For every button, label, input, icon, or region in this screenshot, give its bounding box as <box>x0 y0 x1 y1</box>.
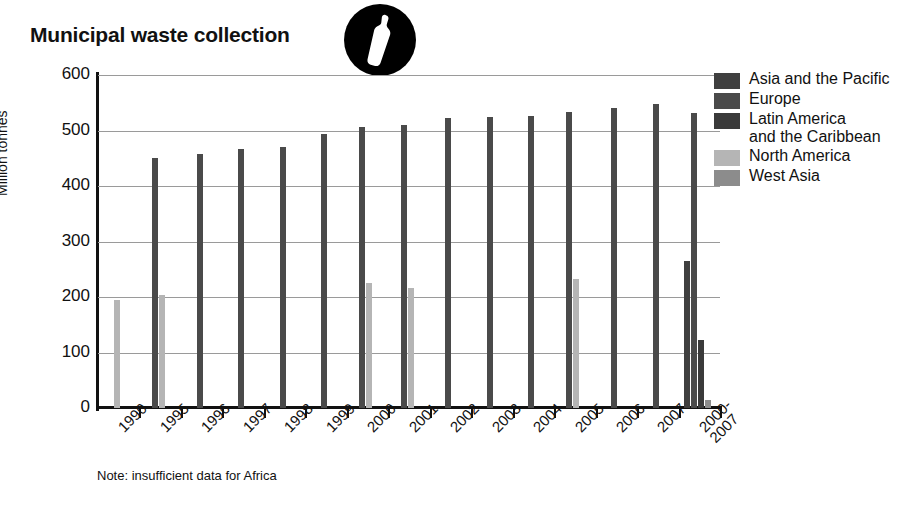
bottle-in-circle-icon <box>340 0 420 80</box>
bar <box>445 118 451 408</box>
chart-note: Note: insufficient data for Africa <box>97 468 277 483</box>
legend-label: Asia and the Pacific <box>749 70 890 88</box>
chart-page: Municipal waste collection Million tonne… <box>0 0 921 508</box>
gridline <box>98 75 720 76</box>
legend-item[interactable]: North America <box>714 147 921 166</box>
bar <box>238 149 244 408</box>
legend-label: West Asia <box>749 167 820 185</box>
bar <box>366 283 372 408</box>
plot-area <box>98 75 720 408</box>
y-tick-label: 100 <box>28 342 90 362</box>
legend-swatch <box>714 93 740 109</box>
y-axis-label: Million tonnes <box>0 110 10 196</box>
legend-item[interactable]: Latin America and the Caribbean <box>714 110 921 146</box>
legend-label: Europe <box>749 90 801 108</box>
bar <box>114 300 120 408</box>
page-title: Municipal waste collection <box>30 23 290 47</box>
gridline <box>98 186 720 187</box>
chart-legend: Asia and the PacificEuropeLatin America … <box>714 70 921 187</box>
legend-swatch <box>714 113 740 129</box>
bar <box>653 104 659 408</box>
bar <box>401 125 407 408</box>
y-tick-label: 200 <box>28 286 90 306</box>
legend-swatch <box>714 150 740 166</box>
bar <box>611 108 617 408</box>
legend-label: North America <box>749 147 850 165</box>
bar <box>152 158 158 408</box>
y-tick-label: 400 <box>28 175 90 195</box>
bar <box>359 127 365 408</box>
legend-swatch <box>714 73 740 89</box>
bar <box>573 279 579 408</box>
gridline <box>98 242 720 243</box>
legend-item[interactable]: Europe <box>714 90 921 109</box>
bar <box>280 147 286 408</box>
legend-label: Latin America and the Caribbean <box>749 110 881 146</box>
bar <box>159 295 165 408</box>
y-tick-label: 0 <box>28 397 90 417</box>
y-tick-label: 600 <box>28 64 90 84</box>
bar <box>691 113 697 408</box>
legend-item[interactable]: Asia and the Pacific <box>714 70 921 89</box>
y-tick-label: 500 <box>28 120 90 140</box>
bar <box>684 261 690 408</box>
bar <box>566 112 572 408</box>
bar <box>528 116 534 408</box>
bar <box>197 154 203 408</box>
bar <box>321 134 327 408</box>
legend-item[interactable]: West Asia <box>714 167 921 186</box>
gridline <box>98 131 720 132</box>
legend-swatch <box>714 170 740 186</box>
bar <box>698 340 704 408</box>
bar <box>487 117 493 408</box>
bar <box>408 288 414 408</box>
y-tick-label: 300 <box>28 231 90 251</box>
